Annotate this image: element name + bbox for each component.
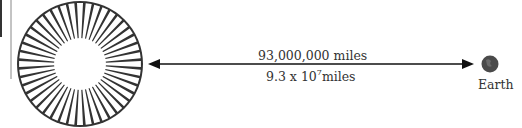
edge-bar — [0, 0, 2, 37]
sun-icon — [17, 1, 143, 127]
earth-icon — [482, 56, 499, 73]
scientific-unit: miles — [322, 69, 356, 84]
earth-label: Earth — [478, 77, 514, 92]
distance-scientific: 9.3 x 107miles — [266, 68, 356, 84]
distance-standard: 93,000,000 miles — [258, 48, 367, 63]
scientific-coefficient: 9.3 x 10 — [266, 69, 317, 84]
sun-earth-diagram — [0, 0, 522, 128]
